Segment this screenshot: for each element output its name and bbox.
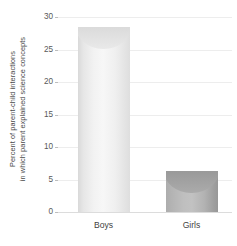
- y-axis-tick-mark: [55, 180, 58, 181]
- bar-top-ellipse: [78, 27, 130, 49]
- gridline: [58, 17, 232, 18]
- y-axis-title: Percent of parent-child interactions in …: [0, 0, 34, 218]
- x-axis-label-boys: Boys: [78, 221, 130, 230]
- y-axis-title-line-1: Percent of parent-child interactions: [8, 51, 17, 167]
- plot-area: 051015202530: [58, 17, 232, 212]
- x-axis-label-girls: Girls: [166, 221, 218, 230]
- y-axis-tick-label: 15: [27, 110, 53, 118]
- bar-chart: Percent of parent-child interactions in …: [0, 0, 237, 246]
- y-axis-tick-label: 0: [27, 208, 53, 216]
- bar-top-highlight: [78, 27, 130, 49]
- y-axis-tick-mark: [55, 50, 58, 51]
- y-axis-tick-mark: [55, 115, 58, 116]
- y-axis-tick-label: 20: [27, 78, 53, 86]
- y-axis-tick-label: 10: [27, 143, 53, 151]
- bar-body: [78, 27, 130, 212]
- bar-top-ellipse: [166, 171, 218, 193]
- gridline: [58, 212, 232, 213]
- y-axis-title-line-2: in which parent explained science concep…: [18, 37, 27, 181]
- y-axis-tick-label: 25: [27, 45, 53, 53]
- y-axis-tick-mark: [55, 17, 58, 18]
- bar-top-highlight: [166, 171, 218, 193]
- y-axis-tick-mark: [55, 82, 58, 83]
- y-axis-tick-mark: [55, 212, 58, 213]
- y-axis-tick-label: 30: [27, 13, 53, 21]
- bar-girls: [166, 171, 218, 212]
- y-axis-tick-label: 5: [27, 175, 53, 183]
- bar-boys: [78, 27, 130, 212]
- y-axis-tick-mark: [55, 147, 58, 148]
